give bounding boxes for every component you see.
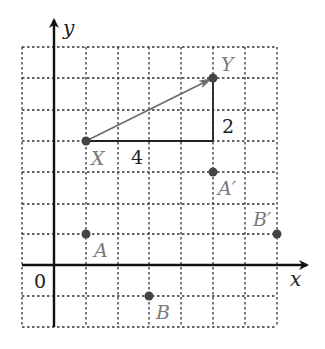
point-label-B: B (155, 301, 170, 323)
point-A (82, 230, 91, 239)
y-axis-label: y (62, 16, 75, 40)
x-axis-label: x (290, 267, 301, 291)
point-B (145, 292, 154, 301)
axes (22, 20, 307, 327)
origin-label: 0 (34, 270, 46, 292)
point-Y (209, 74, 218, 83)
point-label-X: X (89, 147, 106, 169)
coordinate-diagram: y x 0 4 2 X Y A B A′ B′ (0, 0, 325, 349)
point-label-A: A (92, 239, 108, 261)
horizontal-component-label: 4 (131, 146, 143, 168)
point-label-B-prime: B′ (252, 208, 272, 230)
point-X (82, 137, 91, 146)
point-label-A-prime: A′ (216, 177, 237, 199)
point-A-prime (209, 168, 218, 177)
vertical-component-label: 2 (222, 115, 234, 137)
grid (22, 47, 277, 327)
point-B-prime (273, 230, 282, 239)
point-label-Y: Y (221, 53, 236, 75)
